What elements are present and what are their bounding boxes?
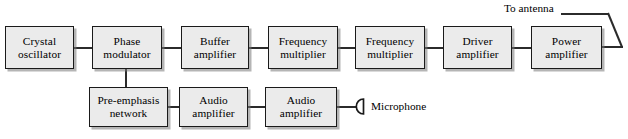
wire-mult1-to-mult2	[336, 47, 357, 49]
block-label-line1: Frequency	[277, 35, 330, 48]
wire-power-to-antenna-output	[601, 46, 623, 48]
block-diagram-canvas: Crystal oscillator Phase modulator Buffe…	[0, 0, 628, 139]
block-label-line1: Driver	[454, 35, 500, 48]
block-frequency-multiplier-1[interactable]: Frequency multiplier	[268, 26, 338, 69]
block-label-line1: Audio	[190, 94, 236, 107]
block-power-amplifier[interactable]: Power amplifier	[531, 26, 602, 69]
block-label-line2: oscillator	[16, 48, 63, 61]
wire-driver-to-power	[510, 47, 533, 49]
block-buffer-amplifier[interactable]: Buffer amplifier	[181, 26, 249, 69]
wire-mult2-to-driver	[423, 47, 445, 49]
block-label-line1: Crystal	[16, 35, 63, 48]
block-phase-modulator[interactable]: Phase modulator	[92, 26, 162, 69]
block-frequency-multiplier-2[interactable]: Frequency multiplier	[355, 26, 425, 69]
block-label-line1: Frequency	[364, 35, 417, 48]
block-audio-amplifier-2[interactable]: Audio amplifier	[265, 87, 337, 127]
block-label-line2: amplifier	[454, 48, 500, 61]
block-label-line2: amplifier	[278, 107, 324, 120]
block-label-line1: Audio	[278, 94, 324, 107]
label-to-antenna: To antenna	[504, 2, 554, 14]
label-microphone: Microphone	[371, 100, 426, 112]
block-label-line2: modulator	[101, 48, 152, 61]
block-audio-amplifier-1[interactable]: Audio amplifier	[179, 87, 248, 127]
wire-audio1-to-audio2	[246, 106, 267, 108]
block-label-line2: multiplier	[277, 48, 330, 61]
wire-crystal-to-phase	[72, 47, 94, 49]
block-label-line1: Phase	[101, 35, 152, 48]
block-label-line1: Pre-emphasis	[95, 94, 161, 107]
wire-phase-to-preemphasis	[125, 67, 127, 89]
block-label-line2: amplifier	[192, 48, 238, 61]
block-label-line2: amplifier	[190, 107, 236, 120]
block-label-line2: network	[95, 107, 161, 120]
block-label-line1: Buffer	[192, 35, 238, 48]
block-label-line2: multiplier	[364, 48, 417, 61]
block-crystal-oscillator[interactable]: Crystal oscillator	[5, 26, 74, 69]
wire-audio2-to-microphone	[335, 106, 357, 108]
block-label-line1: Power	[543, 35, 589, 48]
wire-buffer-to-mult1	[248, 47, 270, 49]
block-pre-emphasis-network[interactable]: Pre-emphasis network	[89, 87, 168, 127]
microphone-icon	[355, 97, 369, 116]
block-driver-amplifier[interactable]: Driver amplifier	[443, 26, 512, 69]
block-label-line2: amplifier	[543, 48, 589, 61]
